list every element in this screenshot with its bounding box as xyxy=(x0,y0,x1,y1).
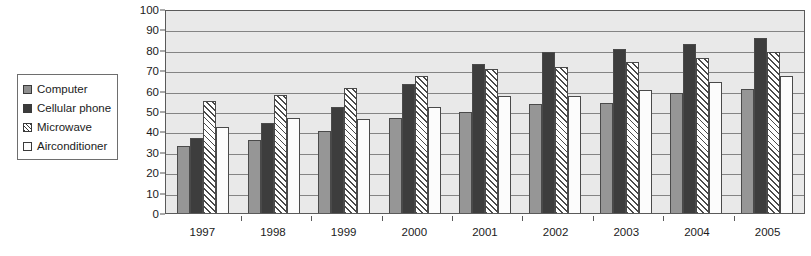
y-axis-tick-label: 50 xyxy=(146,107,159,118)
bar-microwave-1999 xyxy=(344,88,357,213)
y-axis: 1009080706050403020100 xyxy=(135,10,165,214)
x-axis-tick-label: 1999 xyxy=(318,216,370,239)
y-axis-tick-label: 100 xyxy=(140,5,159,16)
bar-computer-2005 xyxy=(741,89,754,213)
legend-label-airconditioner: Airconditioner xyxy=(37,140,107,153)
x-axis-tick: 2003 xyxy=(600,216,652,239)
bar-cellular-1999 xyxy=(331,107,344,213)
bar-microwave-2003 xyxy=(626,62,639,213)
bar-computer-1997 xyxy=(177,146,190,213)
x-axis-tick-mark xyxy=(734,216,735,221)
bar-computer-2002 xyxy=(529,104,542,213)
y-axis-tick-label: 20 xyxy=(146,168,159,179)
bar-group xyxy=(177,11,229,213)
legend-item-airconditioner: Airconditioner xyxy=(23,137,117,156)
y-axis-tick-label: 0 xyxy=(153,209,159,220)
y-axis-tick-label: 80 xyxy=(146,45,159,56)
x-axis-tick-mark xyxy=(593,216,594,221)
x-axis-tick: 1999 xyxy=(318,216,370,239)
legend-item-computer: Computer xyxy=(23,80,117,99)
bar-computer-2001 xyxy=(459,112,472,213)
legend-label-cellular-phone: Cellular phone xyxy=(37,102,111,115)
bar-cellular-2000 xyxy=(402,84,415,213)
bar-groups xyxy=(166,11,804,213)
x-axis-tick-mark xyxy=(663,216,664,221)
bar-microwave-2005 xyxy=(767,52,780,213)
bar-computer-2000 xyxy=(389,118,402,213)
x-axis-tick: 1997 xyxy=(176,216,228,239)
x-axis-tick: 2005 xyxy=(742,216,794,239)
bar-aircon-2005 xyxy=(780,76,793,213)
bar-cellular-1998 xyxy=(261,123,274,213)
bar-aircon-2003 xyxy=(639,90,652,213)
x-axis-tick-label: 2002 xyxy=(530,216,582,239)
x-axis: 199719981999200020012002200320042005 xyxy=(165,216,805,239)
x-axis-tick-label: 2004 xyxy=(671,216,723,239)
x-axis-tick-label: 2000 xyxy=(388,216,440,239)
bar-computer-2004 xyxy=(670,93,683,213)
x-axis-tick: 2000 xyxy=(388,216,440,239)
bar-chart: Computer Cellular phone Microwave Aircon… xyxy=(0,0,811,256)
legend-swatch-cellular-phone-icon xyxy=(23,104,32,113)
legend-item-cellular-phone: Cellular phone xyxy=(23,99,117,118)
x-axis-tick: 2001 xyxy=(459,216,511,239)
bar-cellular-1997 xyxy=(190,138,203,213)
bar-aircon-1997 xyxy=(216,127,229,213)
legend-label-microwave: Microwave xyxy=(37,121,92,134)
y-axis-tick-label: 10 xyxy=(146,188,159,199)
bar-group xyxy=(600,11,652,213)
bar-computer-1998 xyxy=(248,140,261,213)
bar-computer-1999 xyxy=(318,131,331,213)
bar-microwave-2001 xyxy=(485,69,498,213)
bar-group xyxy=(389,11,441,213)
plot-wrapper: 1009080706050403020100 19971998199920002… xyxy=(135,10,807,250)
bar-aircon-2004 xyxy=(709,82,722,213)
bar-microwave-2004 xyxy=(696,58,709,213)
bar-computer-2003 xyxy=(600,103,613,213)
bar-group xyxy=(670,11,722,213)
y-axis-tick-label: 30 xyxy=(146,147,159,158)
x-axis-tick: 1998 xyxy=(247,216,299,239)
bar-aircon-2002 xyxy=(568,96,581,213)
bar-group xyxy=(459,11,511,213)
y-axis-tick-label: 60 xyxy=(146,86,159,97)
legend-swatch-airconditioner-icon xyxy=(23,142,32,151)
legend-swatch-computer-icon xyxy=(23,85,32,94)
legend-swatch-microwave-icon xyxy=(23,123,32,132)
x-axis-tick-label: 2001 xyxy=(459,216,511,239)
x-axis-tick-mark xyxy=(452,216,453,221)
bar-cellular-2003 xyxy=(613,49,626,213)
x-axis-tick-label: 1998 xyxy=(247,216,299,239)
x-axis-tick-mark xyxy=(241,216,242,221)
bar-aircon-2001 xyxy=(498,96,511,213)
bar-group xyxy=(318,11,370,213)
bar-microwave-2000 xyxy=(415,76,428,213)
x-axis-tick-label: 2005 xyxy=(742,216,794,239)
bar-group xyxy=(529,11,581,213)
bar-microwave-1997 xyxy=(203,101,216,213)
y-axis-tick-label: 90 xyxy=(146,25,159,36)
x-axis-tick-mark xyxy=(311,216,312,221)
x-axis-tick-mark xyxy=(382,216,383,221)
bar-cellular-2002 xyxy=(542,52,555,213)
x-axis-tick-mark xyxy=(522,216,523,221)
bar-microwave-2002 xyxy=(555,67,568,213)
x-axis-tick: 2002 xyxy=(530,216,582,239)
plot-area xyxy=(165,10,805,214)
bar-cellular-2004 xyxy=(683,44,696,213)
bar-group xyxy=(741,11,793,213)
bar-group xyxy=(248,11,300,213)
chart-legend: Computer Cellular phone Microwave Aircon… xyxy=(17,74,118,160)
legend-item-microwave: Microwave xyxy=(23,118,117,137)
y-axis-tick-label: 70 xyxy=(146,66,159,77)
bar-aircon-1998 xyxy=(287,118,300,213)
legend-label-computer: Computer xyxy=(37,83,88,96)
bar-microwave-1998 xyxy=(274,95,287,213)
bar-cellular-2001 xyxy=(472,64,485,213)
bar-aircon-2000 xyxy=(428,107,441,213)
bar-cellular-2005 xyxy=(754,38,767,213)
bar-aircon-1999 xyxy=(357,119,370,213)
x-axis-tick-label: 2003 xyxy=(600,216,652,239)
x-axis-tick: 2004 xyxy=(671,216,723,239)
y-axis-tick-label: 40 xyxy=(146,127,159,138)
